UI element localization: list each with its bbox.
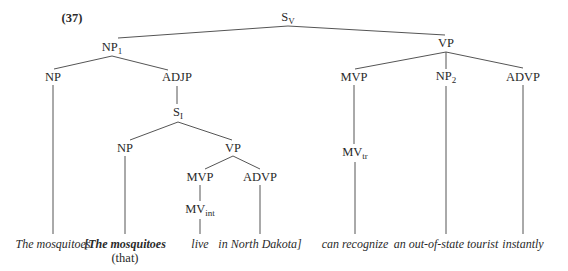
tree-edge — [355, 52, 446, 69]
tree-edge — [178, 122, 232, 140]
node-advp-relative: ADVP — [243, 171, 277, 184]
tree-edge — [205, 156, 233, 169]
node-np-1: NP1 — [102, 41, 122, 56]
node-advp-main: ADVP — [506, 71, 540, 84]
node-adjp: ADJP — [162, 71, 192, 84]
leaf-relative-the-mosquitoes: [The mosquitoes — [84, 238, 166, 250]
leaf-an-out-of-state-tourist: an out-of-state tourist — [394, 238, 499, 250]
tree-edge — [233, 156, 260, 169]
tree-edge — [118, 26, 288, 38]
leaf-live: live — [191, 238, 208, 250]
example-number: (37) — [62, 12, 83, 25]
leaf-instantly: instantly — [502, 238, 543, 250]
tree-edge — [130, 122, 178, 140]
leaf-in-north-dakota: in North Dakota] — [218, 238, 301, 250]
tree-edge — [446, 52, 523, 68]
node-mv-tr: MVtr — [342, 146, 368, 161]
node-s-i: SI — [173, 106, 183, 121]
leaf-the-mosquitoes: The mosquitoes — [16, 238, 91, 250]
node-mvp-main: MVP — [340, 71, 367, 84]
node-np-relative: NP — [117, 142, 133, 155]
tree-edges — [0, 0, 568, 271]
node-mv-int: MVint — [185, 203, 215, 218]
node-s-v: SV — [281, 11, 294, 26]
tree-edge — [112, 56, 168, 70]
tree-edge — [288, 26, 445, 35]
annotation-that: (that) — [111, 252, 138, 265]
node-vp-main: VP — [438, 37, 454, 50]
node-np-head: NP — [45, 71, 61, 84]
node-mvp-relative: MVP — [186, 171, 213, 184]
leaf-can-recognize: can recognize — [322, 238, 389, 250]
node-np-2: NP2 — [436, 70, 456, 85]
tree-edge — [54, 56, 112, 69]
node-vp-relative: VP — [225, 142, 241, 155]
